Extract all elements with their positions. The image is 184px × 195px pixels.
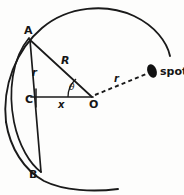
label-point-o: O (89, 99, 98, 110)
label-point-b: B (29, 169, 37, 180)
label-segment-x: x (58, 100, 64, 110)
label-radius-small: r (32, 68, 37, 78)
spot-marker (145, 63, 158, 79)
geometry-figure: A B C O R r r x θ spot (0, 0, 184, 195)
label-angle-theta: θ (69, 83, 75, 92)
label-point-c: C (25, 94, 33, 105)
dashed-segment-o-spot (95, 74, 146, 95)
label-spot: spot (160, 66, 184, 77)
outer-circle-arc-lower (6, 122, 118, 190)
label-point-a: A (24, 25, 33, 36)
label-distance-spot: r (114, 74, 119, 84)
segment-ao-radius-R (29, 39, 92, 97)
label-radius-big: R (61, 55, 69, 66)
